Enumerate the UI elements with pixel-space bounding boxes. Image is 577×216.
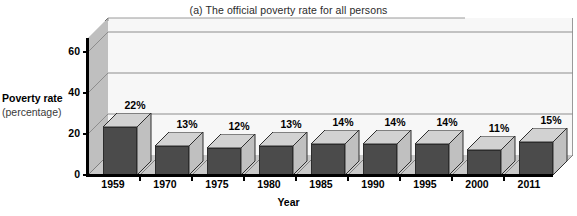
bar-1959[interactable] — [103, 113, 137, 175]
bar-outline — [155, 132, 207, 179]
bar-outline — [415, 130, 467, 179]
bar-1975[interactable] — [207, 134, 241, 175]
x-tick-label-1995: 1995 — [401, 178, 449, 190]
bar-outline — [467, 136, 519, 179]
bar-label-1995: 14% — [425, 116, 469, 128]
y-tick-label-20: 20 — [56, 127, 80, 139]
plot-area: 22% 13% 12% — [0, 0, 577, 216]
bar-1990[interactable] — [363, 130, 397, 175]
x-tick-label-2000: 2000 — [453, 178, 501, 190]
bar-label-2000: 11% — [477, 122, 521, 134]
bar-1985[interactable] — [311, 130, 345, 175]
x-tick-label-1990: 1990 — [349, 178, 397, 190]
chart-screenshot: (a) The official poverty rate for all pe… — [0, 0, 577, 216]
bar-label-1959: 22% — [113, 99, 157, 111]
bar-label-1980: 13% — [269, 118, 313, 130]
bar-2011[interactable] — [519, 128, 553, 175]
bar-outline — [363, 130, 415, 179]
bar-outline — [207, 134, 259, 179]
bar-outline — [311, 130, 363, 179]
y-tick-mark-20 — [83, 133, 88, 135]
bar-label-1990: 14% — [373, 116, 417, 128]
bar-1995[interactable] — [415, 130, 449, 175]
bar-1970[interactable] — [155, 132, 189, 175]
x-tick-label-1970: 1970 — [141, 178, 189, 190]
x-tick-label-1975: 1975 — [193, 178, 241, 190]
x-tick-label-1959: 1959 — [89, 178, 137, 190]
bar-outline — [259, 132, 311, 179]
y-tick-mark-40 — [83, 92, 88, 94]
y-axis-line — [86, 38, 89, 177]
x-tick-label-1985: 1985 — [297, 178, 345, 190]
bar-outline — [103, 113, 155, 179]
x-axis-title: Year — [0, 196, 577, 208]
y-tick-mark-60 — [83, 51, 88, 53]
bar-1980[interactable] — [259, 132, 293, 175]
bar-2000[interactable] — [467, 136, 501, 175]
x-axis-line — [86, 174, 553, 177]
x-tick-label-1980: 1980 — [245, 178, 293, 190]
bar-label-1975: 12% — [217, 120, 261, 132]
bar-label-1970: 13% — [165, 118, 209, 130]
y-tick-label-0: 0 — [56, 168, 80, 180]
bar-label-1985: 14% — [321, 116, 365, 128]
y-tick-mark-0 — [83, 174, 88, 176]
y-tick-label-40: 40 — [56, 86, 80, 98]
bar-outline — [519, 128, 571, 179]
bar-label-2011: 15% — [529, 114, 573, 126]
x-tick-label-2011: 2011 — [505, 178, 553, 190]
y-tick-label-60: 60 — [56, 45, 80, 57]
